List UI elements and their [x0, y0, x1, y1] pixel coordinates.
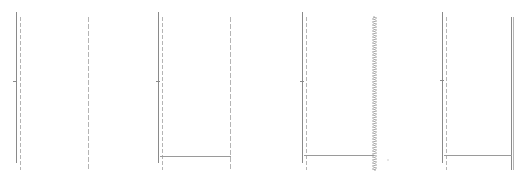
panel-3 [300, 12, 389, 170]
stray-dot [387, 159, 389, 161]
panel-1 [13, 12, 89, 170]
line-diagram [0, 0, 527, 178]
panel-4 [440, 12, 514, 170]
diagram-stage [0, 0, 527, 178]
panel-2 [156, 12, 231, 170]
